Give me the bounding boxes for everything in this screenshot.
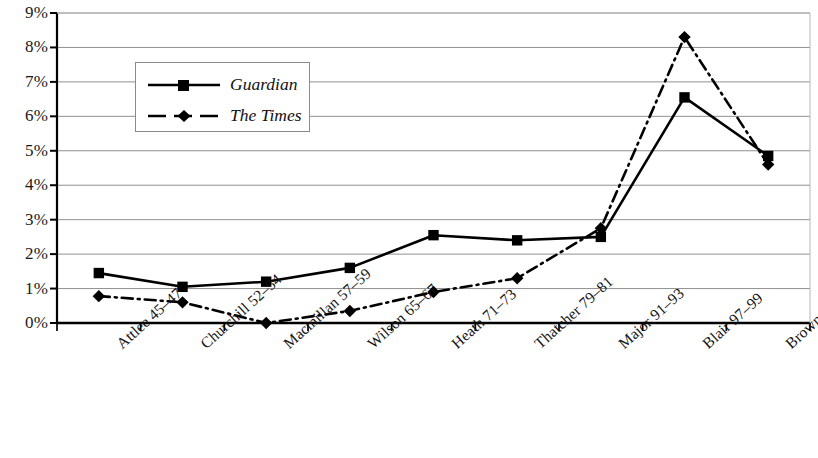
y-tick-label: 6% bbox=[2, 107, 48, 124]
y-tick-label: 9% bbox=[2, 4, 48, 21]
y-tick-label: 2% bbox=[2, 245, 48, 262]
data-point-marker bbox=[679, 92, 689, 102]
plot-area bbox=[0, 0, 818, 458]
legend-entry-guardian: Guardian bbox=[147, 74, 297, 95]
plot-border bbox=[57, 13, 810, 323]
data-point-marker bbox=[344, 305, 356, 317]
data-point-marker bbox=[512, 235, 522, 245]
legend-label-the-times: The Times bbox=[230, 105, 301, 126]
legend-label-guardian: Guardian bbox=[230, 74, 297, 95]
y-tick-label: 4% bbox=[2, 176, 48, 193]
y-tick-label: 8% bbox=[2, 38, 48, 55]
data-point-marker bbox=[93, 290, 105, 302]
legend-swatch-the-times bbox=[147, 108, 221, 124]
data-point-marker bbox=[428, 230, 438, 240]
data-point-marker bbox=[511, 272, 523, 284]
legend-entry-the-times: The Times bbox=[147, 105, 301, 126]
legend-swatch-guardian bbox=[147, 77, 221, 93]
y-tick-label: 0% bbox=[2, 314, 48, 331]
y-tick-label: 3% bbox=[2, 211, 48, 228]
line-chart: 9%8%7%6%5%4%3%2%1%0% Attlee 45–47Churchi… bbox=[0, 0, 818, 458]
data-point-marker bbox=[260, 317, 272, 329]
y-tick-label: 5% bbox=[2, 142, 48, 159]
y-tick-label: 7% bbox=[2, 73, 48, 90]
gridlines bbox=[57, 13, 810, 323]
y-tick-label: 1% bbox=[2, 280, 48, 297]
legend: Guardian The Times bbox=[135, 62, 310, 132]
data-point-marker bbox=[94, 268, 104, 278]
